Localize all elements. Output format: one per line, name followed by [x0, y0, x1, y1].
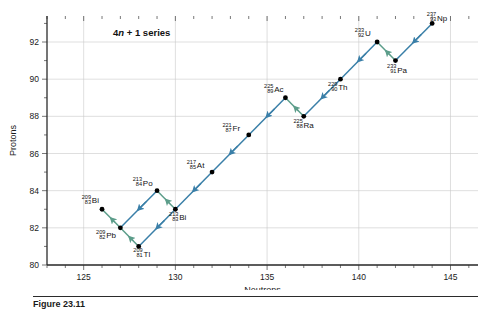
svg-text:Th: Th: [338, 83, 347, 92]
chart-plot-area: 12513013514014580828486889092 20983Bi209…: [0, 0, 491, 290]
svg-text:92: 92: [358, 32, 364, 38]
nuclide-labels: 20983Bi20982Pb20981Tl21384Po21383Bi21785…: [82, 11, 448, 258]
svg-text:Np: Np: [437, 14, 448, 23]
gridlines: [47, 16, 478, 265]
svg-text:91: 91: [390, 68, 396, 74]
svg-text:135: 135: [260, 272, 274, 282]
y-axis-label: Protons: [8, 124, 18, 156]
svg-text:125: 125: [77, 272, 91, 282]
svg-text:81: 81: [136, 252, 142, 258]
svg-text:145: 145: [443, 272, 457, 282]
svg-text:82: 82: [99, 234, 105, 240]
svg-text:U: U: [365, 29, 371, 38]
svg-text:Ra: Ra: [304, 121, 315, 130]
svg-text:87: 87: [226, 127, 232, 133]
svg-text:88: 88: [297, 123, 303, 129]
svg-text:140: 140: [352, 272, 366, 282]
svg-text:82: 82: [30, 223, 40, 233]
svg-text:83: 83: [85, 199, 91, 205]
svg-text:85: 85: [190, 164, 196, 170]
svg-text:89: 89: [267, 88, 273, 94]
svg-text:Pb: Pb: [106, 231, 116, 240]
svg-text:130: 130: [168, 272, 182, 282]
series-annotation: 4n + 1 series: [113, 27, 170, 38]
svg-text:83: 83: [172, 216, 178, 222]
svg-text:84: 84: [30, 186, 40, 196]
svg-text:92: 92: [30, 37, 40, 47]
svg-text:88: 88: [30, 111, 40, 121]
svg-text:Fr: Fr: [233, 124, 241, 133]
svg-text:Pa: Pa: [397, 66, 407, 75]
svg-text:Ac: Ac: [274, 85, 283, 94]
svg-text:93: 93: [430, 16, 436, 22]
caption-divider: [33, 296, 478, 297]
svg-text:Bi: Bi: [92, 196, 99, 205]
svg-text:84: 84: [136, 181, 142, 187]
x-axis-label: Neutrons: [244, 285, 281, 290]
svg-text:80: 80: [30, 260, 40, 270]
svg-text:90: 90: [30, 74, 40, 84]
svg-text:At: At: [197, 161, 205, 170]
svg-text:Po: Po: [143, 179, 153, 188]
figure-caption: Figure 23.11: [33, 299, 478, 311]
svg-text:Bi: Bi: [179, 213, 186, 222]
svg-text:Tl: Tl: [144, 250, 151, 259]
decay-series-chart: 12513013514014580828486889092 20983Bi209…: [0, 0, 491, 290]
figure-container: 12513013514014580828486889092 20983Bi209…: [0, 0, 491, 311]
svg-text:86: 86: [30, 149, 40, 159]
svg-text:90: 90: [331, 86, 337, 92]
